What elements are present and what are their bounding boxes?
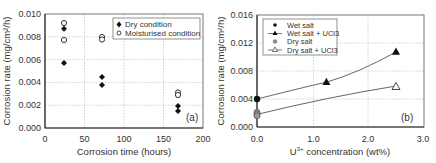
data-point	[99, 82, 105, 88]
circle-filled-icon	[273, 23, 277, 27]
chart-b-y-axis-label: Corrosion rate (mg/cm²/h)	[218, 17, 226, 126]
chart-b-svg: 0.016 0.012 0.008 0.004 0.000 0.0 1.0 2.…	[218, 0, 436, 163]
data-point	[392, 48, 400, 55]
legend-label-dry: Dry condition	[125, 20, 172, 29]
data-point	[61, 60, 67, 66]
legend-label-dry-salt-ucl3: Dry salt + UCl3	[287, 46, 338, 55]
panel-label-a: (a)	[186, 112, 198, 123]
y-tick-label: 0.000	[230, 122, 253, 132]
chart-b-legend: Wet salt Wet salt + UCl3 Dry salt Dry sa…	[263, 19, 339, 55]
y-tick-label: 0.004	[230, 94, 253, 104]
x-tick-label: 2.0	[362, 134, 375, 144]
y-tick-label: 0.012	[230, 38, 253, 48]
data-point	[99, 37, 104, 42]
y-tick-label: 0.000	[18, 123, 41, 133]
chart-a-x-axis-label: Corrosion time (hours)	[77, 146, 172, 157]
y-tick-label: 0.010	[18, 9, 41, 19]
x-tick-label: 0.0	[251, 134, 264, 144]
y-tick-label: 0.016	[230, 10, 253, 20]
chart-b-x-ticks: 0.0 1.0 2.0 3.0	[251, 134, 430, 144]
x-tick-label: 100	[116, 134, 131, 144]
series-dry-salt	[254, 109, 260, 119]
y-tick-label: 0.002	[18, 100, 41, 110]
chart-a-y-axis-label: Corrosion rate (mg/cm²/h)	[1, 17, 12, 126]
x-tick-label: 1.0	[307, 134, 320, 144]
x-tick-label: 50	[79, 134, 89, 144]
chart-a-legend: Dry condition Moisturised condition	[113, 18, 200, 39]
x-tick-label: 3.0	[417, 134, 430, 144]
x-tick-label: 150	[156, 134, 171, 144]
chart-b-y-ticks: 0.016 0.012 0.008 0.004 0.000	[230, 10, 253, 132]
chart-b-x-axis-label: U3+ concentration (wt%)	[290, 146, 390, 157]
chart-b-u3-concentration: 0.016 0.012 0.008 0.004 0.000 0.0 1.0 2.…	[218, 0, 436, 163]
line-dry-salt-ucl3	[257, 86, 396, 114]
data-point	[61, 37, 66, 42]
data-point	[254, 113, 260, 119]
series-wet-salt	[254, 96, 260, 102]
circle-gray-icon	[273, 40, 277, 44]
y-tick-label: 0.004	[18, 77, 41, 87]
data-point	[175, 108, 181, 114]
data-point	[254, 96, 260, 102]
x-tick-label: 200	[195, 134, 210, 144]
circle-open-icon	[117, 31, 121, 35]
panel-label-b: (b)	[401, 112, 413, 123]
chart-a-x-ticks: 0 50 100 150 200	[42, 134, 210, 144]
data-point	[61, 26, 67, 32]
chart-a-y-ticks: 0.010 0.008 0.006 0.004 0.002 0.000	[18, 9, 41, 133]
data-point	[99, 74, 105, 80]
chart-a-svg: 0.010 0.008 0.006 0.004 0.002 0.000 0 50…	[0, 0, 218, 163]
y-tick-label: 0.006	[18, 55, 41, 65]
line-wet-salt-ucl3	[257, 52, 396, 99]
data-point	[61, 20, 66, 25]
y-tick-label: 0.008	[18, 32, 41, 42]
chart-a-corrosion-time: 0.010 0.008 0.006 0.004 0.002 0.000 0 50…	[0, 0, 218, 163]
data-point	[175, 92, 180, 97]
legend-label-moisturised: Moisturised condition	[125, 29, 200, 38]
y-tick-label: 0.008	[230, 66, 253, 76]
x-tick-label: 0	[42, 134, 47, 144]
